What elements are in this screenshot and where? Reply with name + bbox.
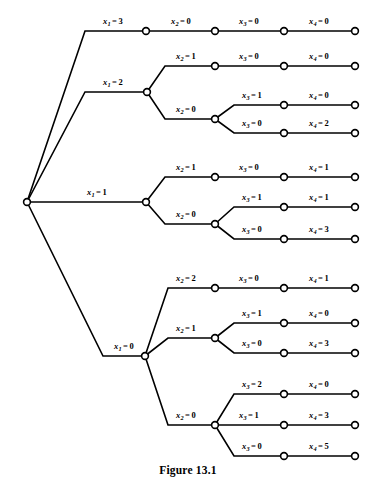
variable-value: 1 (255, 410, 259, 420)
tree-node (352, 453, 359, 460)
tree-node (212, 221, 219, 228)
equals-sign: = (317, 379, 325, 389)
variable-value: 3 (119, 16, 123, 26)
edge-label: x2=1 (176, 324, 196, 334)
edge-label: x3=0 (239, 17, 259, 27)
variable-value: 0 (258, 118, 262, 128)
tree-node (212, 174, 219, 181)
equals-sign: = (250, 338, 258, 348)
tree-node (281, 453, 288, 460)
variable-value: 1 (103, 187, 107, 197)
edge-label: x4=2 (309, 119, 329, 129)
edge-label: x4=3 (309, 339, 329, 349)
equals-sign: = (247, 273, 255, 283)
equals-sign: = (250, 308, 258, 318)
equals-sign: = (317, 16, 325, 26)
variable-value: 0 (187, 16, 191, 26)
variable-value: 1 (258, 192, 262, 202)
tree-node (212, 422, 219, 429)
equals-sign: = (184, 209, 192, 219)
equals-sign: = (247, 162, 255, 172)
edge-label: x4=1 (309, 274, 329, 284)
variable-value: 2 (325, 118, 329, 128)
tree-node (212, 335, 219, 342)
edge-label: x4=1 (309, 193, 329, 203)
tree-node (352, 391, 359, 398)
equals-sign: = (250, 441, 258, 451)
tree-node (281, 204, 288, 211)
tree-node (212, 28, 219, 35)
figure-caption: Figure 13.1 (0, 464, 376, 476)
edge-label: x3=1 (242, 309, 262, 319)
edge-label: x1=0 (114, 342, 134, 352)
variable-value: 2 (119, 77, 123, 87)
equals-sign: = (179, 16, 187, 26)
variable-value: 1 (325, 273, 329, 283)
tree-node (352, 320, 359, 327)
variable-value: 1 (325, 192, 329, 202)
equals-sign: = (184, 273, 192, 283)
variable-value: 0 (255, 51, 259, 61)
edge-label: x3=1 (239, 411, 259, 421)
equals-sign: = (317, 162, 325, 172)
edge-label: x3=1 (242, 193, 262, 203)
variable-value: 3 (325, 410, 329, 420)
variable-value: 1 (258, 308, 262, 318)
variable-value: 0 (325, 90, 329, 100)
tree-node (212, 285, 219, 292)
tree-node (281, 102, 288, 109)
equals-sign: = (317, 90, 325, 100)
equals-sign: = (250, 379, 258, 389)
equals-sign: = (317, 410, 325, 420)
tree-node (281, 350, 288, 357)
equals-sign: = (122, 341, 130, 351)
tree-node (281, 285, 288, 292)
edge-label: x3=0 (239, 274, 259, 284)
tree-node (281, 28, 288, 35)
tree-node (212, 63, 219, 70)
edge-label: x1=1 (87, 188, 107, 198)
equals-sign: = (247, 51, 255, 61)
equals-sign: = (317, 441, 325, 451)
edge-label: x2=0 (176, 210, 196, 220)
edge-label: x2=0 (176, 411, 196, 421)
edge-label: x3=0 (242, 442, 262, 452)
variable-value: 0 (255, 16, 259, 26)
edge-label: x4=3 (309, 225, 329, 235)
edge-label: x4=0 (309, 309, 329, 319)
tree-edge (215, 105, 284, 119)
edge-label: x3=0 (239, 52, 259, 62)
equals-sign: = (317, 118, 325, 128)
variable-value: 0 (130, 341, 134, 351)
edge-label: x3=0 (242, 339, 262, 349)
tree-node (352, 63, 359, 70)
variable-value: 1 (192, 162, 196, 172)
variable-value: 2 (192, 273, 196, 283)
equals-sign: = (247, 410, 255, 420)
tree-node (212, 116, 219, 123)
edge-label: x3=0 (242, 225, 262, 235)
edge-label: x4=3 (309, 411, 329, 421)
tree-node (352, 102, 359, 109)
edge-label: x4=0 (309, 52, 329, 62)
equals-sign: = (184, 323, 192, 333)
edge-label: x4=5 (309, 442, 329, 452)
edge-label: x2=0 (176, 105, 196, 115)
variable-value: 0 (192, 209, 196, 219)
variable-value: 3 (325, 338, 329, 348)
edge-label: x3=0 (239, 163, 259, 173)
equals-sign: = (317, 192, 325, 202)
figure-container: x1=3x1=2x1=1x1=0x2=0x2=1x2=0x2=1x2=0x2=2… (0, 0, 376, 493)
variable-value: 0 (255, 162, 259, 172)
edge-label: x4=0 (309, 380, 329, 390)
tree-edge (147, 66, 215, 92)
equals-sign: = (184, 51, 192, 61)
tree-node (281, 130, 288, 137)
tree-node (352, 350, 359, 357)
variable-value: 0 (325, 16, 329, 26)
equals-sign: = (317, 273, 325, 283)
equals-sign: = (111, 77, 119, 87)
tree-edge (146, 177, 215, 202)
variable-value: 0 (192, 410, 196, 420)
tree-edge (215, 323, 284, 338)
